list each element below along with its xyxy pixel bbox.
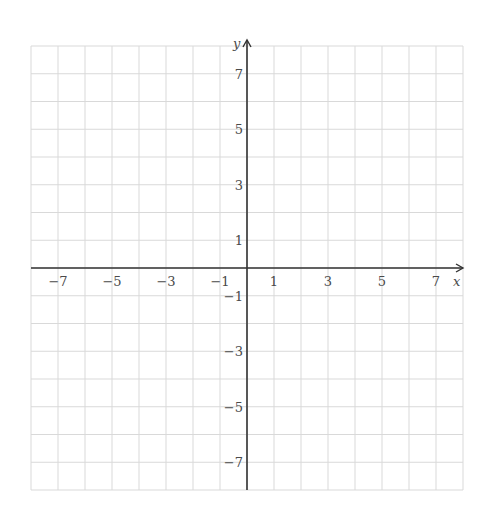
- x-tick-labels: −7−5−3−11357: [48, 274, 440, 289]
- x-tick-label: 1: [270, 274, 278, 289]
- x-tick-label: 5: [378, 274, 386, 289]
- x-tick-label: −3: [156, 274, 175, 289]
- y-tick-label: 7: [235, 67, 243, 82]
- x-tick-label: −1: [210, 274, 229, 289]
- coordinate-plane: −7−5−3−11357 7531−1−3−5−7 x y: [0, 0, 495, 520]
- y-tick-label: 1: [235, 233, 243, 248]
- y-tick-label: −3: [224, 344, 243, 359]
- y-tick-label: 3: [235, 178, 243, 193]
- y-tick-label: −1: [224, 289, 243, 304]
- x-tick-label: −7: [48, 274, 67, 289]
- y-axis-label: y: [232, 36, 241, 51]
- axes: [31, 40, 463, 490]
- y-tick-label: −5: [224, 400, 243, 415]
- x-tick-label: −5: [102, 274, 121, 289]
- y-tick-label: −7: [224, 455, 243, 470]
- x-axis-label: x: [453, 274, 461, 289]
- y-tick-label: 5: [235, 122, 243, 137]
- x-tick-label: 3: [324, 274, 332, 289]
- x-tick-label: 7: [432, 274, 440, 289]
